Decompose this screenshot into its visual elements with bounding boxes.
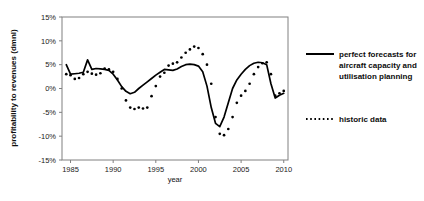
legend-label-forecasts-line2: aircraft capacity and	[339, 61, 417, 70]
data-point-historic	[142, 107, 145, 110]
data-point-historic	[146, 106, 149, 109]
data-point-historic	[172, 62, 175, 65]
x-axis-tick-label: 2000	[190, 165, 207, 174]
data-point-historic	[261, 62, 264, 65]
data-point-historic	[159, 75, 162, 78]
data-point-historic	[108, 68, 111, 71]
data-point-historic	[129, 106, 132, 109]
data-point-historic	[218, 132, 221, 135]
data-point-historic	[193, 45, 196, 48]
data-point-historic	[116, 78, 119, 81]
data-point-historic	[103, 67, 106, 70]
data-point-historic	[244, 90, 247, 93]
x-axis-tick-label: 2010	[275, 165, 292, 174]
data-point-historic	[91, 72, 94, 75]
chart-page: 15%10%5%0%-5%-10%-15% 198519901995200020…	[0, 0, 424, 201]
data-point-historic	[73, 78, 76, 81]
y-axis-tick-label: 10%	[41, 37, 56, 46]
x-axis-title: year	[168, 175, 183, 184]
legend-label-forecasts-line3: utilisation planning	[339, 72, 412, 81]
data-point-historic	[167, 64, 170, 67]
data-point-historic	[206, 63, 209, 66]
data-point-historic	[86, 70, 89, 73]
data-point-historic	[150, 95, 153, 98]
data-point-historic	[78, 77, 81, 80]
x-axis-tick-label: 2005	[233, 165, 250, 174]
y-axis-tick-label: -10%	[38, 132, 56, 141]
data-point-historic	[99, 72, 102, 75]
data-point-historic	[120, 87, 123, 90]
profitability-line-chart: 15%10%5%0%-5%-10%-15% 198519901995200020…	[0, 0, 424, 201]
data-point-historic	[231, 116, 234, 119]
data-point-historic	[176, 61, 179, 64]
data-point-historic	[201, 53, 204, 56]
y-axis-tick-label: -15%	[38, 156, 56, 165]
data-point-historic	[282, 90, 285, 93]
y-axis-tick-label: 5%	[45, 60, 56, 69]
legend-label-historic-data: historic data	[339, 115, 387, 124]
data-point-historic	[133, 108, 136, 111]
data-point-historic	[95, 73, 98, 76]
data-point-historic	[253, 73, 256, 76]
data-point-historic	[227, 128, 230, 131]
plot-frame	[62, 17, 288, 160]
data-point-historic	[214, 116, 217, 119]
data-point-historic	[265, 61, 268, 64]
data-point-historic	[257, 66, 260, 69]
data-point-historic	[112, 70, 115, 73]
data-point-historic	[184, 51, 187, 54]
data-point-historic	[82, 73, 85, 76]
y-axis-tick-label: 0%	[45, 84, 56, 93]
data-point-historic	[69, 74, 72, 77]
x-axis-tick-label: 1990	[105, 165, 122, 174]
data-point-historic	[163, 71, 166, 74]
data-point-historic	[180, 56, 183, 59]
data-point-historic	[137, 106, 140, 109]
legend-label-forecasts-line1: perfect forecasts for	[339, 50, 416, 59]
y-axis-tick-label: 15%	[41, 13, 56, 22]
data-point-historic	[154, 85, 157, 88]
y-axis-tick-label: -5%	[43, 108, 57, 117]
x-axis-tick-label: 1995	[147, 165, 164, 174]
data-point-historic	[197, 47, 200, 50]
data-point-historic	[248, 82, 251, 85]
y-axis-title: profitability to revenues (dmnl)	[9, 29, 18, 147]
data-point-historic	[270, 73, 273, 76]
data-point-historic	[125, 99, 128, 102]
data-point-historic	[274, 94, 277, 97]
data-point-historic	[223, 134, 226, 137]
data-point-historic	[210, 82, 213, 85]
data-point-historic	[235, 101, 238, 104]
data-point-historic	[278, 92, 281, 95]
data-point-historic	[240, 94, 243, 97]
data-point-historic	[189, 48, 192, 51]
x-axis-tick-label: 1985	[62, 165, 79, 174]
data-point-historic	[65, 73, 68, 76]
